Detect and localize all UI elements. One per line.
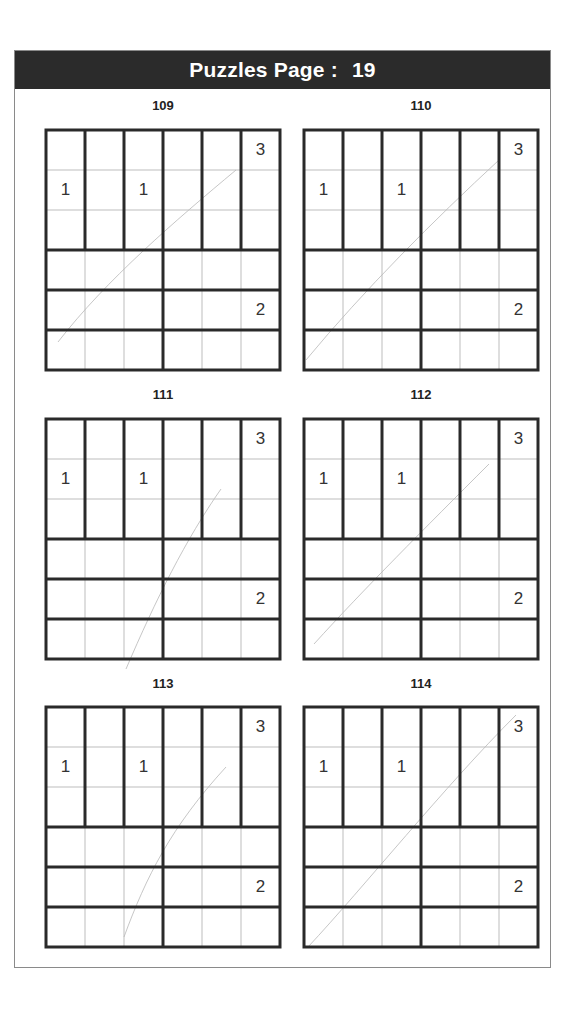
page-header: Puzzles Page : 19 [15,51,550,89]
given-digit: 3 [241,130,280,170]
given-digit: 2 [499,290,538,330]
puzzle-grid[interactable]: 3112 [46,130,280,370]
given-digit: 1 [304,459,343,499]
given-digit: 3 [241,707,280,747]
given-digit: 2 [241,867,280,907]
puzzle-grid[interactable]: 3112 [304,419,538,659]
puzzle-grid[interactable]: 3112 [46,419,280,659]
given-digit: 1 [46,747,85,787]
given-digit: 2 [241,290,280,330]
pencil-mark [124,767,226,937]
given-digit: 3 [499,130,538,170]
given-digit: 1 [304,747,343,787]
puzzle-number-label: 110 [303,98,539,113]
given-digit: 2 [499,579,538,619]
given-digit: 1 [46,170,85,210]
given-digit: 1 [124,459,163,499]
puzzle-grid[interactable]: 3112 [304,707,538,947]
given-digit: 2 [241,579,280,619]
given-digit: 1 [382,170,421,210]
given-digit: 1 [46,459,85,499]
puzzle-number-label: 112 [303,387,539,402]
given-digit: 3 [499,419,538,459]
given-digit: 1 [382,747,421,787]
given-digit: 2 [499,867,538,907]
puzzle-number-label: 111 [45,387,281,402]
given-digit: 3 [241,419,280,459]
given-digit: 1 [124,747,163,787]
puzzle-number-label: 113 [45,676,281,691]
given-digit: 1 [124,170,163,210]
puzzle-number-label: 109 [45,98,281,113]
given-digit: 1 [304,170,343,210]
puzzle-grid[interactable]: 3112 [46,707,280,947]
puzzle-number-label: 114 [303,676,539,691]
given-digit: 1 [382,459,421,499]
page-title: Puzzles Page : [189,58,338,82]
page-number: 19 [352,58,376,82]
puzzle-grid[interactable]: 3112 [304,130,538,370]
given-digit: 3 [499,707,538,747]
